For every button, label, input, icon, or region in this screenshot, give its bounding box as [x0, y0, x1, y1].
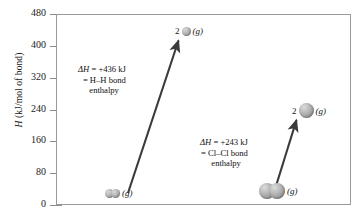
- chlorine-delta-h-value: = +243 kJ: [211, 137, 248, 147]
- y-tick-320: 320: [0, 78, 56, 79]
- chlorine-atoms-coefficient: 2: [292, 106, 297, 116]
- bond-enthalpy-diagram: H (kJ/mol of bond) 480 400 320 240 160 8…: [0, 0, 362, 222]
- hydrogen-atoms-label: 2 (g): [175, 26, 203, 36]
- y-tick-label-320: 320: [31, 71, 46, 82]
- chlorine-atoms-label: 2 (g): [292, 103, 326, 118]
- chlorine-delta-h-symbol: ΔH: [200, 137, 211, 147]
- hydrogen-annotation-line2: = H–H bond: [78, 75, 126, 86]
- chlorine-molecule-sphere-icon: [259, 183, 285, 199]
- y-tick-label-0: 0: [41, 198, 46, 209]
- hydrogen-annotation: ΔH = +436 kJ = H–H bond enthalpy: [78, 64, 126, 96]
- hydrogen-delta-h-symbol: ΔH: [78, 64, 89, 74]
- hydrogen-delta-h-value: = +436 kJ: [89, 64, 126, 74]
- y-tick-400: 400: [0, 46, 56, 47]
- chlorine-atoms-state: (g): [316, 106, 327, 116]
- chlorine-annotation-line3: enthalpy: [200, 158, 248, 169]
- y-tick-160: 160: [0, 141, 56, 142]
- chlorine-annotation: ΔH = +243 kJ = Cl–Cl bond enthalpy: [200, 137, 248, 169]
- hydrogen-atoms-state: (g): [193, 26, 204, 36]
- chlorine-annotation-line2: = Cl–Cl bond: [200, 148, 248, 159]
- y-tick-label-400: 400: [31, 39, 46, 50]
- chlorine-annotation-line1: ΔH = +243 kJ: [200, 137, 248, 148]
- hydrogen-molecule-label: (g): [105, 188, 133, 198]
- y-tick-480: 480: [0, 14, 56, 15]
- hydrogen-atom-sphere-icon: [182, 27, 191, 36]
- y-tick-240: 240: [0, 110, 56, 111]
- y-tick-mark-0: [50, 205, 62, 206]
- hydrogen-annotation-line1: ΔH = +436 kJ: [78, 64, 126, 75]
- y-axis-title: H (kJ/mol of bond): [14, 5, 24, 175]
- y-tick-label-240: 240: [31, 103, 46, 114]
- y-axis-title-symbol: H: [14, 120, 24, 127]
- y-tick-label-480: 480: [31, 7, 46, 18]
- y-tick-80: 80: [0, 173, 56, 174]
- hydrogen-molecule-state: (g): [122, 188, 133, 198]
- y-tick-0: 0: [0, 205, 56, 206]
- y-tick-label-80: 80: [36, 166, 46, 177]
- chlorine-molecule-state: (g): [287, 186, 298, 196]
- chlorine-atom-sphere-icon: [299, 103, 314, 118]
- y-tick-label-160: 160: [31, 134, 46, 145]
- hydrogen-molecule-sphere-icon: [105, 189, 120, 198]
- hydrogen-annotation-line3: enthalpy: [78, 85, 126, 96]
- hydrogen-atoms-coefficient: 2: [175, 26, 180, 36]
- chlorine-molecule-label: (g): [259, 183, 298, 199]
